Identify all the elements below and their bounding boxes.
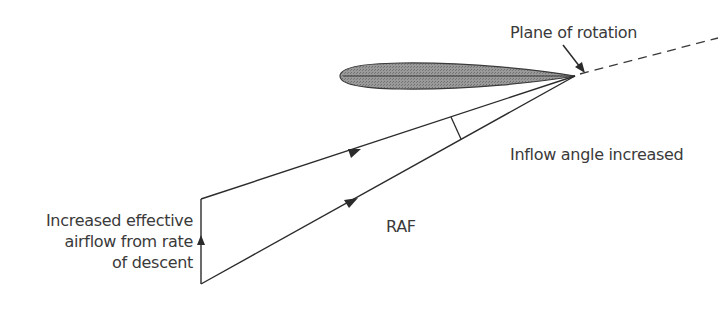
- arrow-head-icon: [197, 235, 205, 245]
- plane-pointer-arrow: [563, 45, 585, 73]
- descent-label-line-3: of descent: [46, 252, 193, 273]
- inflow-angle-arc: [451, 117, 461, 139]
- arrow-head-icon: [344, 198, 358, 208]
- inflow-angle-label: Inflow angle increased: [510, 144, 683, 165]
- plane-of-rotation-line: [580, 38, 718, 74]
- plane-of-rotation-label: Plane of rotation: [510, 22, 637, 43]
- arrow-head-icon: [348, 149, 361, 158]
- descent-label-line-1: Increased effective: [46, 210, 193, 231]
- descent-label-line-2: airflow from rate: [46, 231, 193, 252]
- airfoil: [340, 63, 575, 89]
- descent-airflow-label: Increased effective airflow from rate of…: [46, 210, 193, 273]
- raf-label: RAF: [386, 216, 416, 237]
